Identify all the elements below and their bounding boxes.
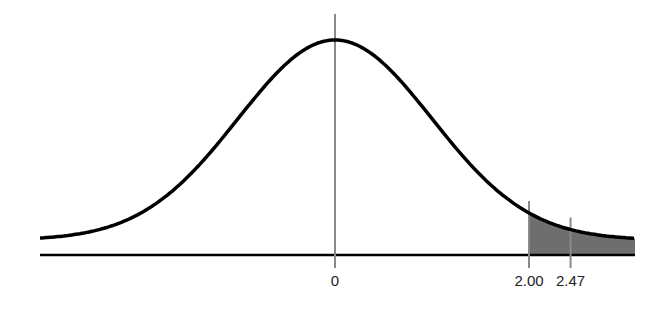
label-2-47: 2.47 (556, 272, 585, 289)
label-zero: 0 (331, 272, 339, 289)
normal-curve-diagram (0, 0, 669, 313)
label-2-00: 2.00 (514, 272, 543, 289)
bell-curve (40, 40, 634, 238)
